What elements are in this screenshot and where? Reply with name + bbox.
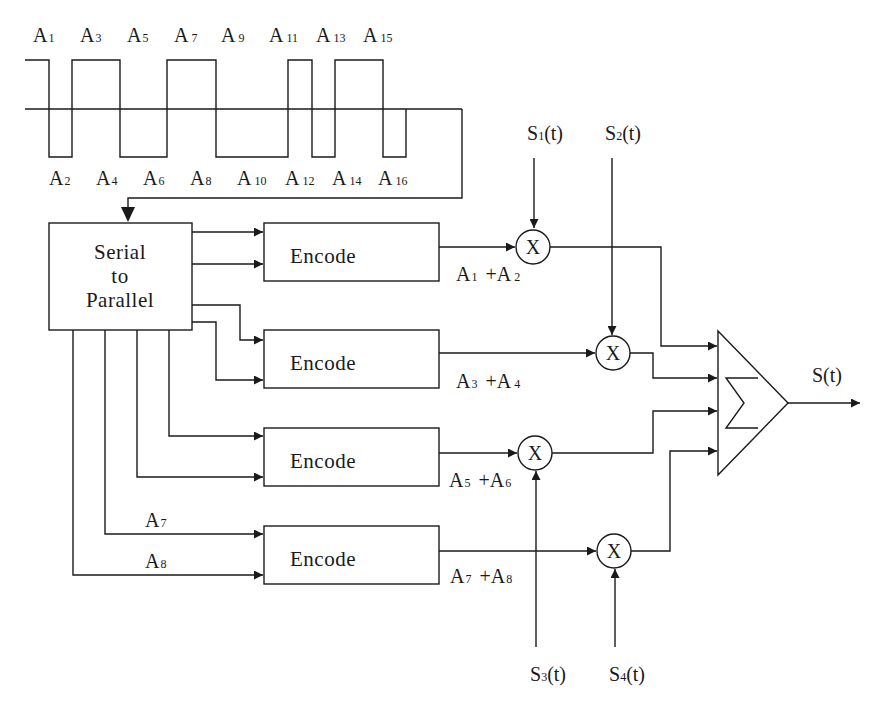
svg-text:Encode: Encode [290,449,356,473]
svg-text:Encode: Encode [290,244,356,268]
summer-inputs [550,247,717,551]
input-label-a7: A7 [145,509,166,531]
svg-text:A11: A11 [269,24,298,46]
carrier-s4-label: S4(t) [609,663,645,686]
encoder-block-4: Encode [264,526,439,584]
svg-text:to: to [111,264,128,288]
svg-text:A4: A4 [96,167,117,189]
waveform-bottom-labels: A2 A4 A6 A8 A10 A12 A14 A16 [49,167,407,189]
svg-text:X: X [607,540,622,562]
carrier-s1-label: S1(t) [527,122,563,145]
encoder-2-output-label: A3+A4 [456,370,520,392]
waveform-feed-line [128,109,462,208]
svg-text:Parallel: Parallel [86,288,154,312]
encoder-3-output-label: A5+A6 [449,469,511,491]
svg-text:X: X [526,236,541,258]
svg-text:A9: A9 [221,24,244,46]
svg-text:X: X [528,442,543,464]
multiplier-2: X [596,336,630,370]
encoder-block-3: Encode [264,428,439,486]
svg-text:A12: A12 [285,167,314,189]
carrier-s3-label: S3(t) [530,663,566,686]
svg-text:A8: A8 [190,167,211,189]
svg-text:A6: A6 [143,167,164,189]
output-label: S(t) [812,364,842,387]
svg-text:Encode: Encode [290,547,356,571]
svg-text:A15: A15 [363,24,392,46]
svg-text:A16: A16 [378,167,407,189]
svg-text:X: X [606,342,621,364]
waveform-top-labels: A1 A3 A5 A7 A9 A11 A13 A15 [33,24,392,46]
serial-to-parallel-block: Serial to Parallel [49,223,192,330]
carrier-s2-label: S2(t) [605,122,641,145]
encoder-block-1: Encode [264,223,439,281]
svg-text:Encode: Encode [290,351,356,375]
multiplier-1: X [516,230,550,264]
input-label-a8: A8 [145,550,166,572]
multiplier-3: X [518,436,552,470]
arrow-down-icon [121,207,135,222]
multicarrier-encoder-diagram: A1 A3 A5 A7 A9 A11 A13 A15 A2 A4 A6 A8 A… [0,0,884,711]
svg-text:A1: A1 [33,24,54,46]
summer-block: Σ [718,331,788,475]
svg-text:A2: A2 [49,167,70,189]
svg-text:A7: A7 [174,24,197,46]
svg-text:A14: A14 [332,167,361,189]
svg-text:Serial: Serial [94,240,146,264]
encoder-1-output-label: A1+A2 [456,263,520,285]
serial-data-waveform [25,60,462,222]
carrier-lines [534,158,615,647]
encoder-block-2: Encode [264,330,439,388]
encoder-outputs [439,247,596,551]
svg-text:A13: A13 [316,24,345,46]
svg-text:A5: A5 [127,24,148,46]
multiplier-4: X [597,534,631,568]
svg-text:A3: A3 [80,24,101,46]
svg-text:A10: A10 [237,167,266,189]
encoder-4-output-label: A7+A8 [450,565,512,587]
